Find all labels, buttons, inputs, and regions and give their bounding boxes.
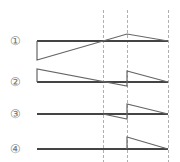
row-label-3: ③: [8, 107, 22, 121]
row-label-1: ①: [8, 34, 22, 48]
row-label-2: ②: [8, 75, 22, 89]
row-label-4: ④: [8, 142, 22, 156]
diagram-rows: [37, 34, 168, 149]
waveform-1: [37, 34, 168, 60]
row-2: [37, 69, 168, 86]
waveform-diagram: [0, 0, 180, 162]
row-1: [37, 34, 168, 60]
row-3: [37, 104, 168, 119]
waveform-2: [37, 69, 168, 86]
waveform-3: [103, 104, 168, 119]
row-4: [37, 137, 168, 149]
waveform-4: [127, 137, 168, 149]
